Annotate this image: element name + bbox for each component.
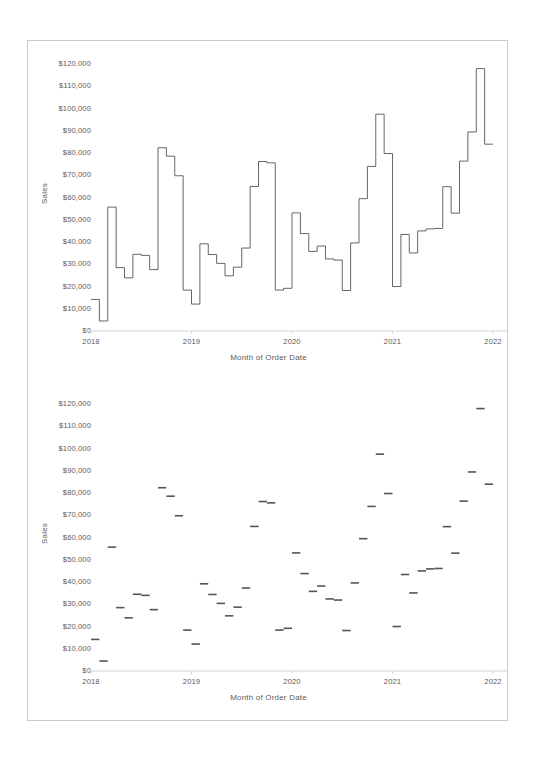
x-axis-ticks-top: 20182019202020212022 xyxy=(28,337,509,351)
x-tick-label: 2021 xyxy=(371,337,415,346)
x-tick-label: 2019 xyxy=(170,677,214,686)
dash-mark-series xyxy=(91,409,493,661)
x-tick-label: 2022 xyxy=(471,677,515,686)
x-axis-title-bottom: Month of Order Date xyxy=(28,693,509,702)
x-tick-label: 2022 xyxy=(471,337,515,346)
step-line-series xyxy=(91,69,493,321)
x-tick-label: 2020 xyxy=(270,337,314,346)
screenshot-root: Sales $0$10,000$20,000$30,000$40,000$50,… xyxy=(0,0,535,757)
chart-panel-top[interactable]: Sales $0$10,000$20,000$30,000$40,000$50,… xyxy=(28,41,509,381)
x-axis-title-top: Month of Order Date xyxy=(28,353,509,362)
x-tick-label: 2019 xyxy=(170,337,214,346)
x-tick-label: 2021 xyxy=(371,677,415,686)
chart-panel-bottom[interactable]: Sales $0$10,000$20,000$30,000$40,000$50,… xyxy=(28,381,509,721)
report-frame: Sales $0$10,000$20,000$30,000$40,000$50,… xyxy=(27,40,508,721)
step-line-plot[interactable] xyxy=(28,41,509,381)
x-tick-label: 2020 xyxy=(270,677,314,686)
gantt-dash-plot[interactable] xyxy=(28,381,509,721)
x-tick-label: 2018 xyxy=(69,677,113,686)
x-tick-label: 2018 xyxy=(69,337,113,346)
x-axis-ticks-bottom: 20182019202020212022 xyxy=(28,677,509,691)
